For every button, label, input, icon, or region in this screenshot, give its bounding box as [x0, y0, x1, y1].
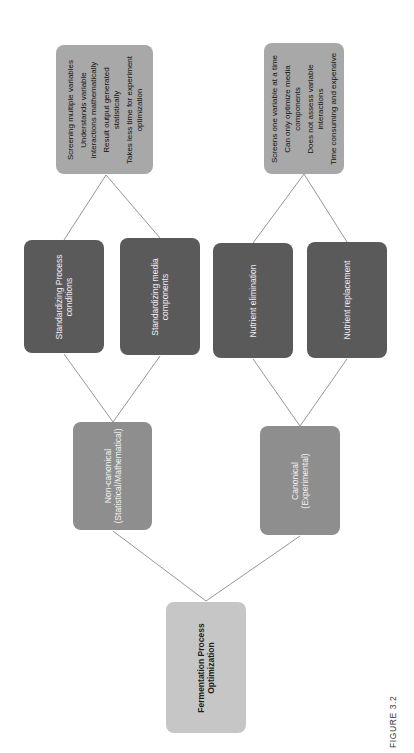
figure-caption: FIGURE 3.2	[388, 688, 398, 748]
method-node-standardizing-process-conditions: Standardizing Process conditions	[24, 240, 104, 353]
method-node-nutrient-replacement: Nutrient replacement	[307, 242, 387, 358]
summary-item: Time consuming and expensive	[329, 52, 339, 164]
summary-item-cont: components	[293, 52, 303, 164]
summary-item: Can only optimize media	[283, 52, 293, 164]
summary-node-canonical: Screens one variable at a time Can only …	[264, 43, 344, 174]
method-label-line-1: Nutrient elimination	[248, 264, 258, 337]
approach-node-canonical: Canonical (Experimental)	[260, 426, 340, 535]
root-label-line-1: Fermentation Process	[196, 623, 206, 712]
summary-item-cont: interactions mathematically	[88, 55, 98, 163]
summary-item: Does not assess variable	[306, 52, 316, 164]
method-label-line-1: Nutrient replacement	[342, 261, 352, 340]
method-node-standardizing-media-components: Standardizing media components	[120, 238, 200, 355]
summary-node-non-canonical: Screening multiple variables Understands…	[56, 45, 153, 174]
summary-item-cont: interactions	[316, 52, 326, 164]
approach-node-non-canonical: Non-canonical (Statistical/Mathematical)	[73, 422, 152, 530]
summary-item: Result output generated	[101, 55, 111, 163]
summary-item-cont: optimization	[134, 55, 144, 163]
non-canonical-label-line-1: Non-canonical	[102, 429, 112, 524]
canonical-label-line-2: (Experimental)	[300, 453, 310, 508]
canonical-label-line-1: Canonical	[290, 453, 300, 508]
method-label-line-1: Standardizing media	[150, 258, 160, 336]
summary-item: Screens one variable at a time	[270, 52, 280, 164]
method-label-line-1: Standardizing Process	[54, 254, 64, 339]
method-label-line-2: conditions	[64, 254, 74, 339]
method-label-line-2: components	[160, 258, 170, 336]
root-label-line-2: Optimization	[206, 623, 216, 712]
fermentation-optimization-diagram: Fermentation Process Optimization Non-ca…	[0, 0, 414, 753]
summary-item: Screening multiple variables	[65, 55, 75, 163]
non-canonical-label-line-2: (Statistical/Mathematical)	[113, 429, 123, 524]
summary-item-cont: statistically	[111, 55, 121, 163]
summary-item: Takes less time for experiment	[124, 55, 134, 163]
summary-item: Understands variable	[78, 55, 88, 163]
root-node-fermentation-process-optimization: Fermentation Process Optimization	[166, 602, 246, 733]
method-node-nutrient-elimination: Nutrient elimination	[213, 243, 293, 358]
